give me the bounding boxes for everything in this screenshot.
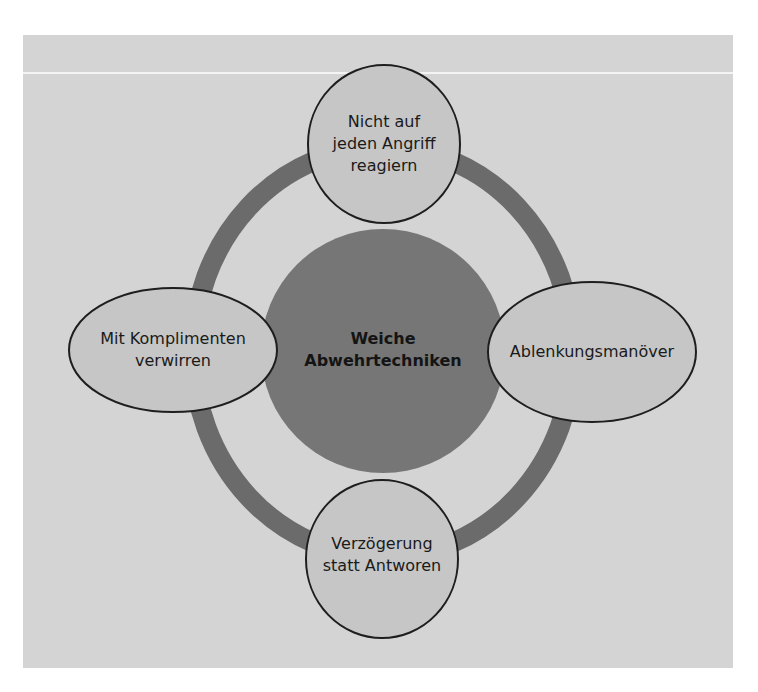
center-label-line-1: Weiche <box>350 328 415 350</box>
center-label: Weiche Abwehrtechniken <box>273 320 493 380</box>
node-right-label: Ablenkungsmanöver <box>490 338 694 366</box>
node-bottom-line-1: Verzögerung <box>331 533 432 555</box>
node-right-line-1: Ablenkungsmanöver <box>510 341 674 363</box>
node-bottom-label: Verzögerung statt Antworen <box>307 530 457 580</box>
node-bottom-line-2: statt Antworen <box>323 555 442 577</box>
node-top-line-2: jeden Angriff <box>333 133 436 155</box>
node-top-label: Nicht auf jeden Angriff reagiern <box>309 108 459 180</box>
node-left-label: Mit Komplimenten verwirren <box>71 325 275 375</box>
node-top-line-1: Nicht auf <box>348 111 420 133</box>
node-top-line-3: reagiern <box>351 155 418 177</box>
center-label-line-2: Abwehrtechniken <box>304 350 461 372</box>
node-left-line-2: verwirren <box>135 350 211 372</box>
node-left-line-1: Mit Komplimenten <box>100 328 246 350</box>
